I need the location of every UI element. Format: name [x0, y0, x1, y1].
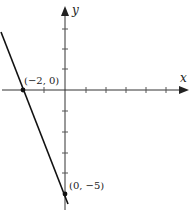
point-x-intercept — [21, 88, 26, 93]
line-graph: y x (−2, 0) (0, −5) — [0, 0, 191, 213]
x-axis — [2, 86, 189, 94]
point-y-intercept — [63, 192, 68, 197]
y-axis-label: y — [71, 3, 79, 17]
y-axis-arrow-icon — [61, 6, 69, 16]
y-axis — [61, 6, 69, 210]
x-axis-label: x — [180, 71, 187, 85]
point-label-x-intercept: (−2, 0) — [24, 75, 59, 86]
data-line — [1, 32, 68, 204]
x-axis-arrow-icon — [179, 86, 189, 94]
point-label-y-intercept: (0, −5) — [69, 180, 104, 191]
